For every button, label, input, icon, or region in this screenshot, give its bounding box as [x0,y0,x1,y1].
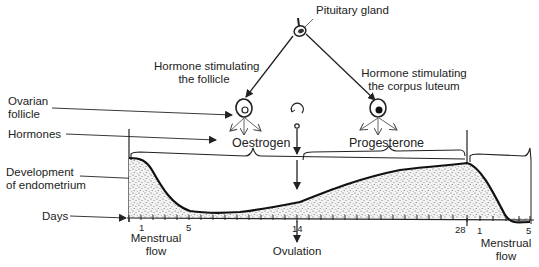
ovulation-egg-icon [291,103,303,128]
endometrium-label-line2: of endometrium [6,179,86,192]
day-tick-5: 5 [186,222,191,233]
ovarian-follicle-label-line1: Ovarian [8,95,48,108]
days-pointer [70,216,126,218]
progesterone-label: Progesterone [349,137,424,150]
ovulation-label: Ovulation [267,245,327,258]
day-tick-5-next: 5 [526,225,531,236]
day-tick-28: 28 [455,224,466,235]
lh-label-line2: the corpus luteum [360,80,468,93]
menstrual-flow-next-label-line1: Menstrual [476,237,536,250]
pituitary-gland-label: Pituitary gland [316,4,389,17]
endometrium-label-line1: Development [6,166,74,179]
lh-label-line1: Hormone stimulating [360,67,468,80]
oestrogen-label: Oestrogen [232,137,290,150]
day-tick-1-next: 1 [477,225,482,236]
day-tick-14: 14 [292,223,303,234]
hormones-label: Hormones [8,128,61,141]
fsh-label-line1: Hormone stimulating [154,60,254,73]
menstrual-flow-next-label-line2: flow [476,250,536,263]
hormones-pointer [66,134,216,140]
fsh-label-line2: the follicle [154,73,254,86]
menstrual-flow-label-line1: Menstrual [126,232,186,245]
ovarian-follicle-label-line2: follicle [8,108,40,121]
next-cycle-brace [470,148,531,162]
corpus-luteum-icon [360,99,397,135]
ovarian-follicle-pointer [52,108,232,115]
ovarian-follicle-icon [230,98,261,135]
days-label: Days [42,210,68,223]
pituitary-gland-icon [293,18,313,38]
menstrual-flow-label-line2: flow [126,245,186,258]
